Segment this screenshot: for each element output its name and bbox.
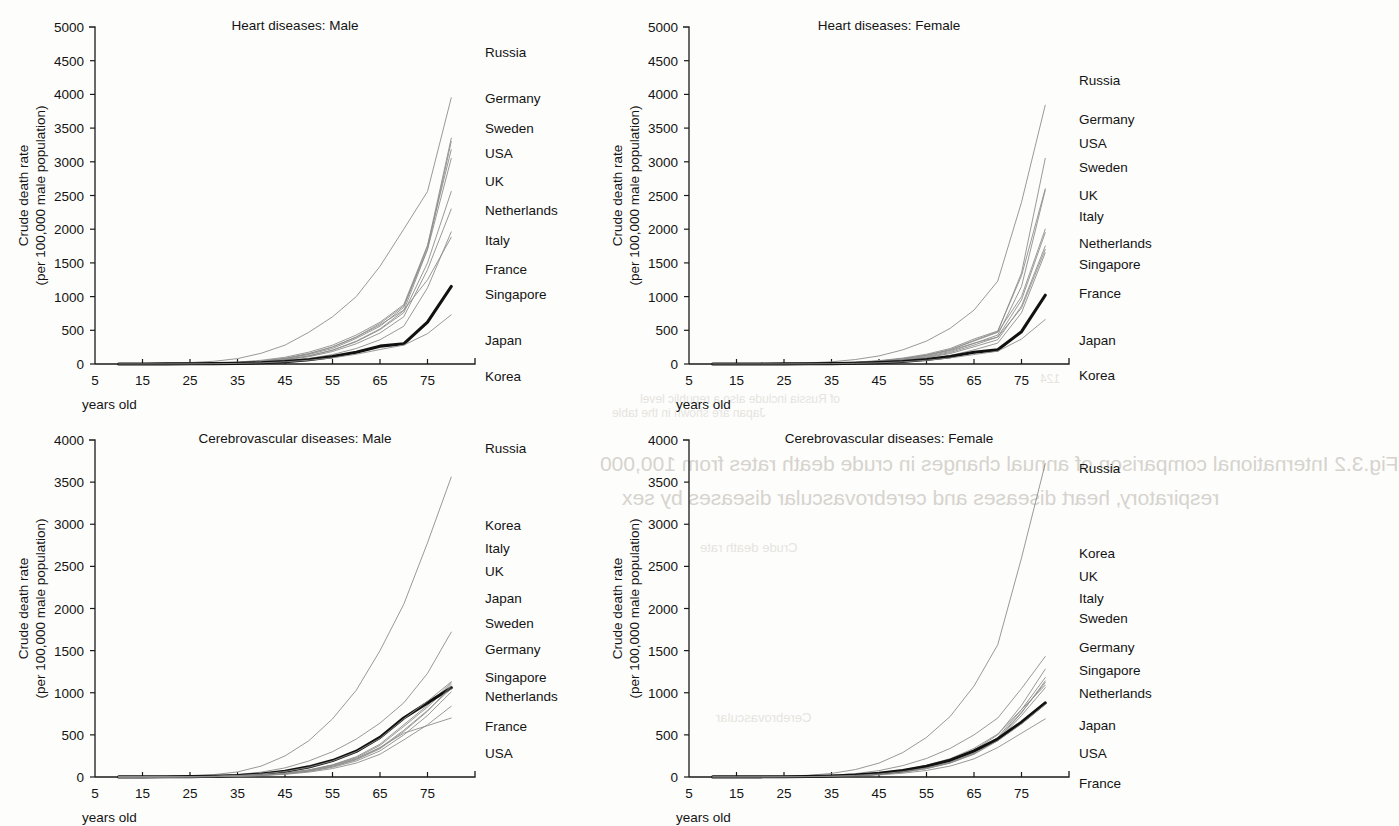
- y-axis-title-line1: Crude death rate: [16, 145, 31, 246]
- series-label-russia: Russia: [485, 45, 527, 60]
- y-tick-label: 4500: [648, 54, 678, 69]
- y-tick-label: 3000: [54, 517, 84, 532]
- y-tick-label: 500: [655, 728, 678, 743]
- series-line-japan: [119, 286, 452, 363]
- series-label-singapore: Singapore: [1079, 257, 1141, 272]
- x-tick-label: 5: [685, 373, 693, 388]
- x-tick-label: 25: [182, 786, 197, 801]
- y-axis-title-line2: (per 100,000 male population): [33, 105, 48, 285]
- x-tick-label: 35: [230, 373, 245, 388]
- series-label-france: France: [1079, 776, 1121, 791]
- y-tick-label: 500: [61, 323, 84, 338]
- x-axis-title: years old: [82, 810, 137, 825]
- series-label-sweden: Sweden: [1079, 160, 1128, 175]
- y-tick-label: 500: [61, 728, 84, 743]
- y-tick-label: 2500: [54, 559, 84, 574]
- y-axis-title-line2: (per 100,000 male population): [627, 105, 642, 285]
- series-label-japan: Japan: [1079, 333, 1116, 348]
- y-tick-label: 1000: [54, 290, 84, 305]
- x-tick-label: 15: [135, 786, 150, 801]
- series-label-netherlands: Netherlands: [1079, 686, 1152, 701]
- y-tick-label: 1000: [648, 686, 678, 701]
- series-label-singapore: Singapore: [485, 287, 547, 302]
- series-label-italy: Italy: [1079, 591, 1104, 606]
- y-tick-label: 4500: [54, 54, 84, 69]
- x-tick-label: 25: [182, 373, 197, 388]
- series-label-netherlands: Netherlands: [1079, 236, 1152, 251]
- series-line-netherlands: [713, 246, 1046, 364]
- x-tick-label: 45: [871, 373, 886, 388]
- panel-cerebrovascular-female: 0500100015002000250030003500400051525354…: [594, 413, 1188, 826]
- y-tick-label: 3000: [54, 155, 84, 170]
- y-tick-label: 0: [76, 770, 84, 785]
- y-tick-label: 0: [670, 357, 678, 372]
- series-label-netherlands: Netherlands: [485, 689, 558, 704]
- x-tick-label: 5: [685, 786, 693, 801]
- x-tick-label: 35: [230, 786, 245, 801]
- chart-cerebro-male: 0500100015002000250030003500400051525354…: [0, 413, 594, 826]
- series-line-korea: [119, 315, 452, 364]
- y-tick-label: 2000: [54, 602, 84, 617]
- series-label-uk: UK: [1079, 188, 1098, 203]
- y-tick-label: 2000: [648, 602, 678, 617]
- series-label-sweden: Sweden: [485, 121, 534, 136]
- y-tick-label: 0: [670, 770, 678, 785]
- series-line-france: [119, 706, 452, 777]
- series-label-germany: Germany: [485, 91, 541, 106]
- x-tick-label: 15: [135, 373, 150, 388]
- series-label-italy: Italy: [1079, 209, 1104, 224]
- y-tick-label: 1000: [54, 686, 84, 701]
- y-tick-label: 1500: [54, 256, 84, 271]
- series-line-korea: [713, 320, 1046, 364]
- y-axis-title-line2: (per 100,000 male population): [33, 518, 48, 698]
- series-line-sweden: [119, 142, 452, 364]
- series-label-russia: Russia: [1079, 461, 1121, 476]
- panel-title: Cerebrovascular diseases: Male: [199, 431, 392, 446]
- x-tick-label: 45: [871, 786, 886, 801]
- y-tick-label: 5000: [54, 20, 84, 35]
- series-label-korea: Korea: [1079, 368, 1116, 383]
- series-line-singapore: [119, 682, 452, 777]
- y-tick-label: 0: [76, 357, 84, 372]
- series-label-usa: USA: [1079, 746, 1107, 761]
- series-label-korea: Korea: [485, 518, 522, 533]
- series-label-japan: Japan: [485, 591, 522, 606]
- y-tick-label: 1500: [54, 644, 84, 659]
- series-label-germany: Germany: [485, 642, 541, 657]
- series-line-germany: [119, 138, 452, 364]
- x-axis-title: years old: [676, 810, 731, 825]
- x-tick-label: 25: [776, 373, 791, 388]
- series-label-russia: Russia: [1079, 73, 1121, 88]
- y-tick-label: 2500: [648, 559, 678, 574]
- y-tick-label: 2500: [648, 189, 678, 204]
- series-label-uk: UK: [485, 564, 504, 579]
- x-tick-label: 75: [420, 373, 435, 388]
- series-line-france: [713, 719, 1046, 777]
- series-line-france: [713, 253, 1046, 364]
- y-axis-title-line2: (per 100,000 male population): [627, 518, 642, 698]
- series-label-sweden: Sweden: [485, 616, 534, 631]
- y-tick-label: 4000: [648, 433, 678, 448]
- panel-title: Heart diseases: Female: [818, 18, 961, 33]
- panel-cerebrovascular-male: 0500100015002000250030003500400051525354…: [0, 413, 594, 826]
- y-tick-label: 2000: [54, 222, 84, 237]
- series-label-usa: USA: [1079, 136, 1107, 151]
- x-tick-label: 25: [776, 786, 791, 801]
- series-line-uk: [713, 669, 1046, 777]
- x-tick-label: 65: [372, 373, 387, 388]
- series-label-korea: Korea: [1079, 546, 1116, 561]
- y-tick-label: 2500: [54, 189, 84, 204]
- panel-title: Cerebrovascular diseases: Female: [785, 431, 994, 446]
- x-tick-label: 45: [277, 373, 292, 388]
- y-tick-label: 3500: [54, 121, 84, 136]
- y-tick-label: 1500: [648, 644, 678, 659]
- x-tick-label: 65: [966, 786, 981, 801]
- x-tick-label: 55: [325, 786, 340, 801]
- panel-heart-female: 0500100015002000250030003500400045005000…: [594, 0, 1188, 413]
- series-line-korea: [119, 632, 452, 777]
- series-label-sweden: Sweden: [1079, 611, 1128, 626]
- x-tick-label: 55: [325, 373, 340, 388]
- x-tick-label: 35: [824, 786, 839, 801]
- series-label-singapore: Singapore: [485, 670, 547, 685]
- x-tick-label: 75: [420, 786, 435, 801]
